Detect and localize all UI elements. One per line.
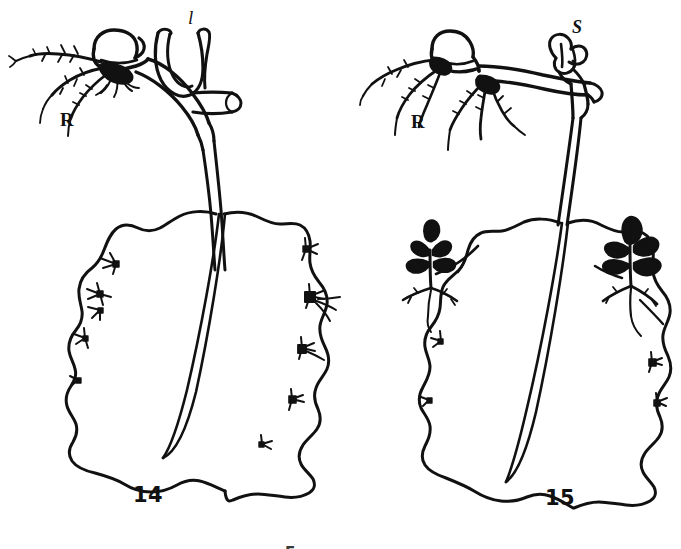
figure-15-plantlet-left (403, 220, 478, 332)
marginal-bud (87, 283, 111, 305)
marginal-bud (88, 307, 103, 320)
figure-15-label-shoot: S (572, 18, 582, 36)
figure-15-label-roots: R (411, 112, 425, 131)
figure-15-petiole (558, 118, 581, 225)
figure-14-number: 14 (133, 485, 163, 506)
figure-14-young-leaf-loop (155, 29, 210, 96)
figure-14-label-roots: R (60, 110, 74, 129)
figure-15-number: 15 (545, 488, 575, 509)
figure-14-leaf-blade (66, 212, 329, 501)
figure-14-midrib (163, 214, 225, 458)
marginal-bud (421, 397, 432, 406)
marginal-bud (298, 337, 324, 360)
plate-drawing (0, 0, 681, 549)
botanical-plate: l R 14 S R 15 F (0, 0, 681, 549)
figure-15-drawing (360, 31, 671, 508)
figure-14-label-leaf: l (188, 8, 193, 27)
cropped-caption: F (285, 544, 295, 549)
figure-14-drawing (9, 29, 340, 501)
figure-14-roots (9, 45, 139, 136)
figure-15-roots (360, 58, 525, 150)
marginal-bud (259, 435, 272, 449)
marginal-bud (289, 389, 304, 410)
marginal-bud (654, 393, 667, 406)
marginal-bud (649, 352, 662, 372)
marginal-bud (431, 331, 443, 347)
figure-15-midrib (506, 223, 568, 482)
